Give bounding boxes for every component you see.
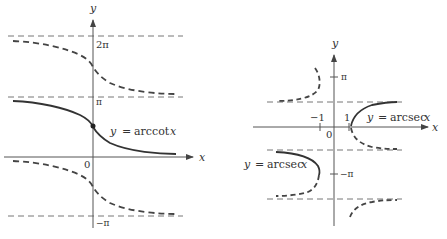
tick-label-2pi: 2π [96, 39, 109, 50]
dashed-branch-lower [13, 161, 176, 214]
tick-label-neg-pi: −π [340, 169, 354, 179]
arccot-point-pi-over-2 [91, 124, 96, 129]
label-fn: arcsec [267, 158, 303, 171]
figure-canvas: y x 0 2π π −π y = arccot x [0, 0, 447, 239]
tick-label-pi: π [96, 97, 102, 107]
y-axis-label: y [89, 2, 97, 15]
label-x: x [301, 158, 308, 171]
label-x: x [424, 111, 431, 124]
label-fn: arccot [134, 125, 170, 138]
label-y: y [366, 111, 374, 124]
dashed-branch-lower-left [276, 175, 319, 196]
arccot-graph: y x 0 2π π −π y = arccot x [4, 2, 206, 228]
tick-label-one: 1 [344, 112, 350, 123]
origin-label: 0 [326, 129, 332, 140]
tick-label-neg-one: −1 [310, 112, 325, 123]
arcsec-lower-label: y = arcsec x [243, 158, 308, 171]
y-axis-label: y [331, 37, 339, 50]
label-fn: arcsec [390, 111, 426, 124]
arcsec-graph: y x 0 π −π −1 1 y = arcsec x y = arcsec … [243, 37, 439, 226]
origin-label: 0 [84, 159, 90, 170]
label-equals: = [255, 158, 264, 171]
dashed-branch-bottom-right [350, 200, 397, 217]
dashed-branch-lower-right [351, 128, 397, 149]
arcsec-upper-label: y = arcsec x [366, 111, 431, 124]
x-axis-label: x [199, 151, 206, 164]
x-axis-label: x [432, 121, 439, 134]
tick-label-pi: π [341, 72, 347, 82]
dashed-branch-upper-left [276, 68, 320, 101]
dashed-branch-upper [13, 41, 176, 94]
label-y: y [109, 125, 117, 138]
label-y: y [243, 158, 251, 171]
tick-label-neg-pi: −π [96, 218, 110, 228]
label-equals: = [378, 111, 387, 124]
label-equals: = [122, 125, 131, 138]
arccot-curve-label: y = arccot x [109, 125, 177, 138]
label-x: x [170, 125, 177, 138]
